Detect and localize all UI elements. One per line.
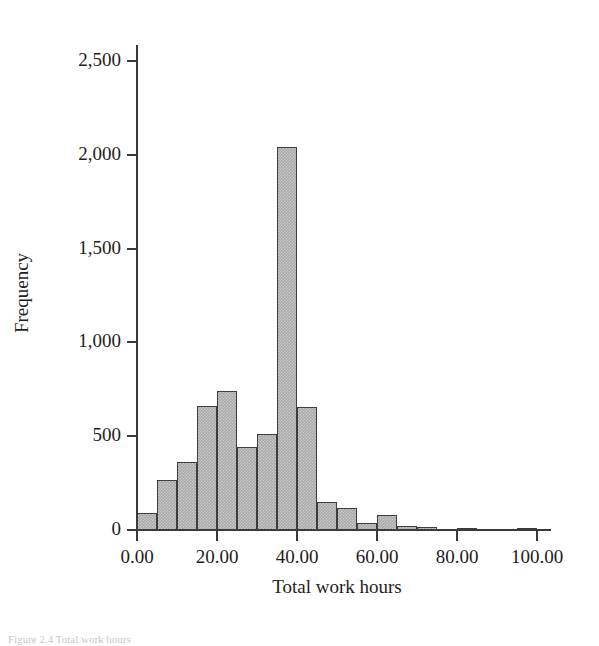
y-axis-tick bbox=[127, 154, 137, 156]
histogram-bar bbox=[417, 527, 437, 530]
y-axis-tick-label-wrap: 1,500 bbox=[45, 238, 121, 257]
histogram-bar bbox=[197, 406, 217, 530]
x-axis-tick-label: 40.00 bbox=[252, 546, 342, 568]
y-axis-tick-label: 1,000 bbox=[51, 331, 121, 350]
histogram-bar bbox=[277, 147, 297, 530]
figure-caption: Figure 2.4 Total work hours bbox=[8, 633, 428, 646]
y-axis-tick-label-wrap: 500 bbox=[45, 425, 121, 444]
x-axis-tick bbox=[456, 530, 458, 541]
y-axis-tick-label-wrap: 1,000 bbox=[45, 331, 121, 350]
histogram-bar bbox=[177, 462, 197, 530]
histogram-bar bbox=[457, 528, 477, 530]
histogram-bar bbox=[257, 434, 277, 530]
histogram-bar bbox=[337, 508, 357, 531]
x-axis-tick-label: 20.00 bbox=[172, 546, 262, 568]
y-axis-tick-label: 2,500 bbox=[51, 50, 121, 69]
histogram-bar bbox=[317, 502, 337, 530]
y-axis-tick bbox=[127, 248, 137, 250]
x-axis-tick bbox=[216, 530, 218, 541]
y-axis-tick-label: 2,000 bbox=[51, 144, 121, 163]
x-axis-tick-label: 60.00 bbox=[332, 546, 422, 568]
histogram-bar bbox=[157, 480, 177, 530]
y-axis-tick-label: 0 bbox=[51, 519, 121, 538]
histogram-bar bbox=[377, 515, 397, 530]
histogram-bar bbox=[237, 447, 257, 530]
x-axis-tick-label: 0.00 bbox=[92, 546, 182, 568]
y-axis-title: Frequency bbox=[11, 233, 33, 353]
y-axis-tick-label-wrap: 2,500 bbox=[45, 50, 121, 69]
histogram-bar bbox=[217, 391, 237, 530]
x-axis-tick bbox=[376, 530, 378, 541]
histogram-bar bbox=[517, 528, 537, 530]
x-axis-tick bbox=[296, 530, 298, 541]
histogram-bar bbox=[357, 523, 377, 531]
plot-area bbox=[137, 61, 537, 530]
y-axis-tick-label: 1,500 bbox=[51, 238, 121, 257]
histogram-bar bbox=[297, 407, 317, 530]
x-axis-title: Total work hours bbox=[137, 576, 537, 598]
x-axis-tick bbox=[536, 530, 538, 541]
histogram-bar bbox=[397, 526, 417, 530]
y-axis-tick bbox=[127, 435, 137, 437]
y-axis-tick-label-wrap: 0 bbox=[45, 519, 121, 538]
y-axis-tick bbox=[127, 60, 137, 62]
y-axis-tick-label-wrap: 2,000 bbox=[45, 144, 121, 163]
y-axis-tick bbox=[127, 341, 137, 343]
x-axis-tick-label: 80.00 bbox=[412, 546, 502, 568]
y-axis-tick-label: 500 bbox=[51, 425, 121, 444]
x-axis-tick bbox=[136, 530, 138, 541]
x-axis-tick-label: 100.00 bbox=[492, 546, 582, 568]
histogram-bar bbox=[137, 513, 157, 530]
